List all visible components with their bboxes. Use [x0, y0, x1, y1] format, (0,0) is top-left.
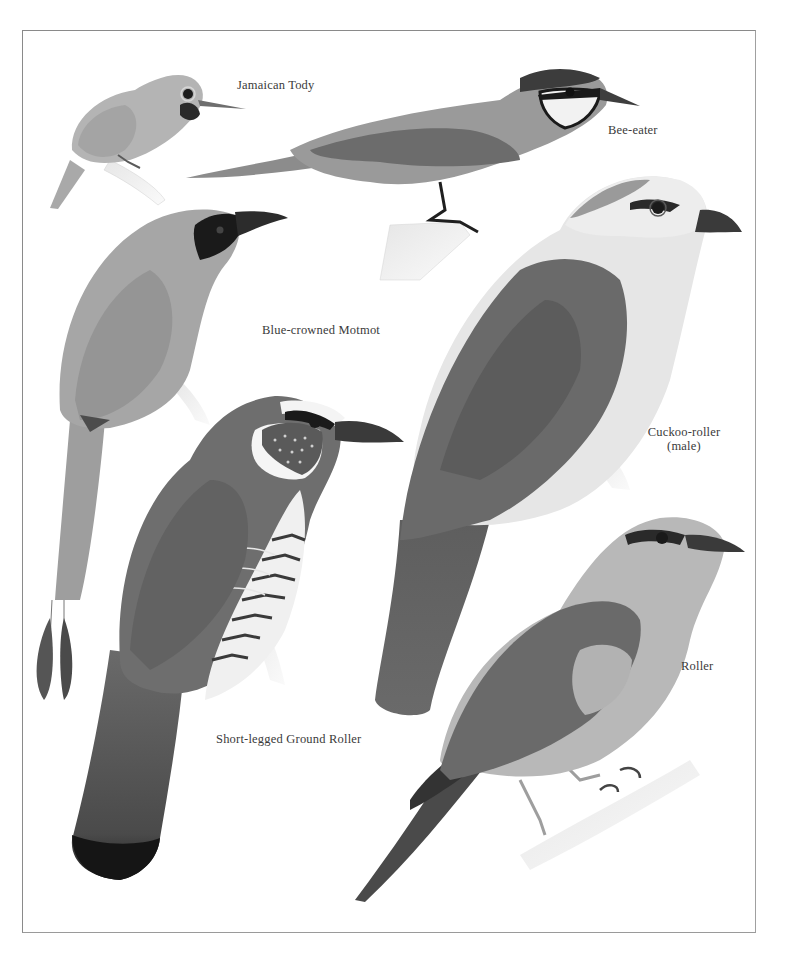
label-cuckoo-roller-name: Cuckoo-roller: [640, 425, 728, 439]
illustration-plate: Jamaican Tody Bee-eater Blue-crowned Mot…: [0, 0, 785, 961]
label-bee-eater: Bee-eater: [608, 123, 658, 137]
label-blue-crowned-motmot: Blue-crowned Motmot: [262, 323, 380, 337]
label-cuckoo-roller: Cuckoo-roller (male): [640, 425, 728, 453]
label-roller: Roller: [681, 659, 713, 673]
jamaican-tody-illustration: [50, 75, 246, 209]
label-short-legged-ground-roller: Short-legged Ground Roller: [216, 732, 361, 746]
label-jamaican-tody: Jamaican Tody: [237, 78, 315, 92]
label-cuckoo-roller-sublabel: (male): [640, 439, 728, 453]
bird-illustrations: [0, 0, 785, 961]
short-legged-ground-roller-illustration: [72, 396, 404, 880]
